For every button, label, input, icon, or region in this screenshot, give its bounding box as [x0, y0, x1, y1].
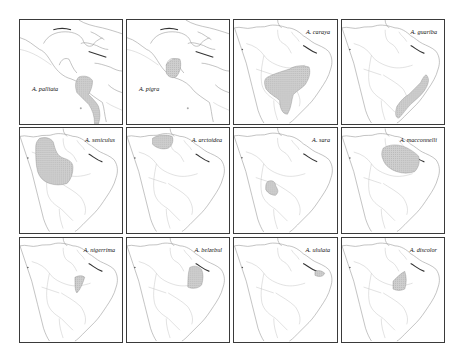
central-america-map — [127, 20, 229, 124]
south-america-map — [342, 238, 444, 342]
species-label: A. pigra — [139, 85, 159, 92]
species-label: A. ululata — [306, 246, 330, 253]
species-label: A. discolor — [410, 246, 437, 253]
species-label: A. macconnelli — [400, 136, 437, 143]
map-panel-sara: A. sara — [233, 127, 338, 234]
range-polygon — [393, 271, 406, 290]
species-label: A. nigerrima — [83, 246, 115, 253]
range-polygon — [315, 271, 325, 277]
map-panel-discolor: A. discolor — [341, 237, 445, 343]
south-america-map — [342, 20, 444, 124]
map-panel-arctoidea: A. arctoidea — [126, 127, 230, 234]
species-label: A. seniculus — [85, 136, 115, 143]
map-panel-guariba: A. guariba — [341, 19, 445, 125]
range-polygon — [188, 266, 203, 288]
map-panel-macconnelli: A. macconnelli — [341, 127, 445, 234]
south-america-map — [234, 238, 337, 342]
south-america-map — [127, 238, 229, 342]
map-panel-belzebul: A. belzebul — [126, 237, 230, 343]
south-america-map — [20, 128, 122, 233]
range-polygon — [382, 145, 420, 173]
species-label: A. guariba — [411, 28, 437, 35]
map-panel-pigra: A. pigra — [126, 19, 230, 125]
map-panel-caraya: A. caraya — [233, 19, 338, 125]
south-america-map — [20, 238, 122, 342]
species-label: A. arctoidea — [192, 136, 222, 143]
species-label: A. sara — [312, 136, 330, 143]
south-america-map — [127, 128, 229, 233]
range-polygon — [153, 135, 173, 149]
range-polygon — [396, 75, 429, 118]
map-panel-seniculus: A. seniculus — [19, 127, 123, 234]
species-label: A. palliata — [32, 85, 58, 92]
map-panel-palliata: A. palliata — [19, 19, 123, 125]
range-polygon — [75, 276, 85, 293]
south-america-map — [234, 20, 337, 124]
central-america-map — [20, 20, 122, 124]
range-polygon — [76, 76, 100, 124]
map-panel-nigerrima: A. nigerrima — [19, 237, 123, 343]
range-polygon — [265, 66, 310, 114]
species-label: A. belzebul — [195, 246, 223, 253]
map-panel-ululata: A. ululata — [233, 237, 338, 343]
south-america-map — [342, 128, 444, 233]
species-label: A. caraya — [306, 28, 330, 35]
range-polygon — [266, 181, 278, 196]
south-america-map — [234, 128, 337, 233]
range-polygon — [36, 138, 73, 185]
